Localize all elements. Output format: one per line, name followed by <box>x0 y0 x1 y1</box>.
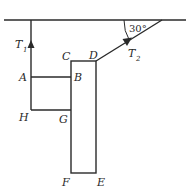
label-c: C <box>62 50 71 63</box>
label-g: G <box>59 113 68 126</box>
diagram: 30° T 1 T 2 A B C D H G F E <box>0 0 192 195</box>
t2-arrow-icon <box>123 38 133 47</box>
label-a: A <box>18 71 27 84</box>
t2-subscript: 2 <box>135 55 141 63</box>
label-f: F <box>61 176 70 189</box>
label-d: D <box>88 49 98 62</box>
label-h: H <box>18 111 29 124</box>
t1-subscript: 1 <box>23 46 27 54</box>
angle-label: 30° <box>129 23 147 34</box>
label-e: E <box>96 176 105 189</box>
t1-arrow-icon <box>28 40 35 48</box>
label-b: B <box>73 71 82 84</box>
